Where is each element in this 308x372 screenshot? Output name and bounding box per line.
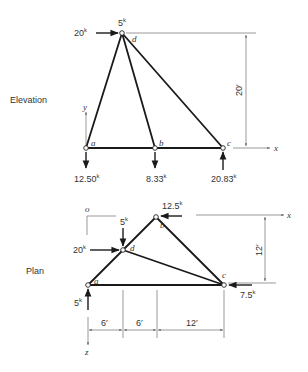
reaction-label-b: 8.33k <box>146 173 168 184</box>
plan-joint-a <box>86 283 91 288</box>
elevation-title: Elevation <box>10 95 47 105</box>
plan-joint-d <box>121 248 126 253</box>
joint-label-a: a <box>91 138 96 148</box>
reaction-label-c: 20.83k <box>211 173 238 184</box>
plan-title: Plan <box>26 266 44 276</box>
load-label-5k-d: 5k <box>120 216 129 227</box>
member-bc <box>156 217 224 285</box>
joint-label-d: d <box>132 34 137 44</box>
origin-bracket <box>87 216 116 235</box>
dimension-depth-label: 12′ <box>254 244 264 256</box>
load-label-5k: 5k <box>118 17 127 28</box>
load-label-5k-a: 5k <box>74 297 83 308</box>
plan-joint-label-d: d <box>130 243 135 253</box>
load-label-7-5k: 7.5k <box>240 289 257 300</box>
joint-c <box>221 146 226 151</box>
joint-label-b: b <box>159 138 164 148</box>
member-dc <box>123 250 224 285</box>
plan-joint-label-c: c <box>222 270 226 280</box>
plan-joint-label-b: b <box>160 220 165 230</box>
truss-diagram: Elevation 20′ x y 20k 5k 12.50k 8.33k 20… <box>0 0 308 372</box>
z-axis-label: z <box>84 347 89 357</box>
plan-view: Plan o x 12′ 12.5k 5k 20k 5k 7.5k 6′ <box>26 200 291 357</box>
plan-joint-c <box>222 283 227 288</box>
dimension-label-2: 6′ <box>136 318 143 328</box>
y-axis-label: y <box>82 102 87 112</box>
load-label-12-5k: 12.5k <box>162 200 184 211</box>
member-bd <box>122 33 155 148</box>
plan-joint-label-a: a <box>94 276 99 286</box>
origin-label: o <box>85 204 90 214</box>
member-ad <box>86 33 122 148</box>
joint-a <box>84 146 89 151</box>
load-label-20k: 20k <box>74 27 88 38</box>
plan-x-axis-label: x <box>286 210 291 220</box>
member-cd <box>122 33 223 148</box>
elevation-view: Elevation 20′ x y 20k 5k 12.50k 8.33k 20… <box>10 17 278 184</box>
dimension-label-1: 6′ <box>101 318 108 328</box>
load-label-20k-d: 20k <box>73 244 87 255</box>
dimension-label-3: 12′ <box>186 318 198 328</box>
joint-b <box>153 146 158 151</box>
reaction-label-a: 12.50k <box>74 173 101 184</box>
joint-d <box>120 31 125 36</box>
joint-label-c: c <box>227 138 231 148</box>
plan-joint-b <box>154 215 159 220</box>
dimension-height-label: 20′ <box>234 84 244 96</box>
x-axis-label: x <box>273 143 278 153</box>
